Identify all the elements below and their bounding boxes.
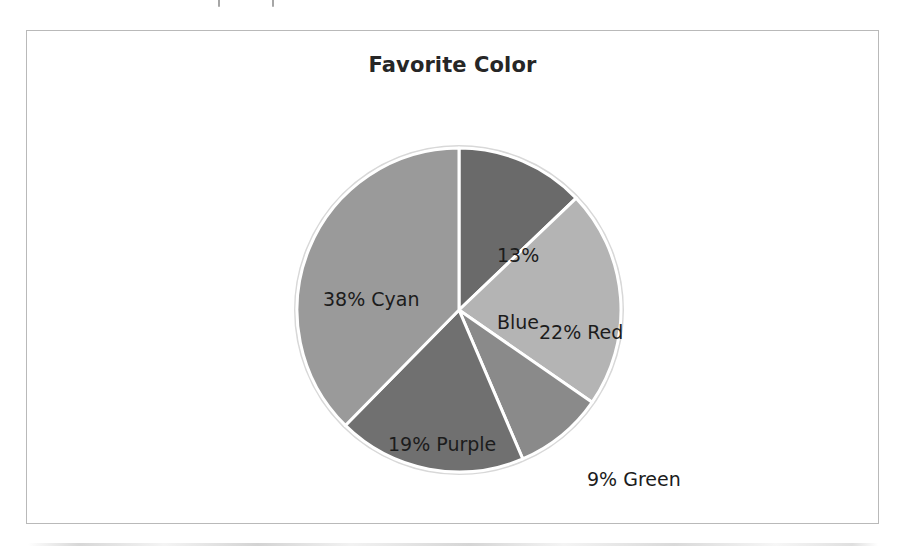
pie-label-cyan: 38% Cyan	[323, 288, 419, 310]
pie-label-blue-value: 13%	[497, 244, 539, 266]
scan-artifact-bottom	[28, 543, 878, 546]
pie-label-purple: 19% Purple	[388, 433, 496, 455]
scan-artifact-mark	[272, 0, 274, 7]
chart-title: Favorite Color	[27, 53, 878, 77]
pie-label-green: 9% Green	[587, 468, 681, 490]
pie-label-blue-name: Blue	[497, 311, 539, 333]
pie-label-red: 22% Red	[539, 321, 623, 343]
scan-artifact-mark	[218, 0, 220, 7]
scan-artifact-top	[218, 0, 318, 7]
pie-label-blue: 13% Blue	[497, 199, 539, 378]
chart-frame: Favorite Color 13% Blue 22% Red 9% Green…	[26, 30, 879, 524]
